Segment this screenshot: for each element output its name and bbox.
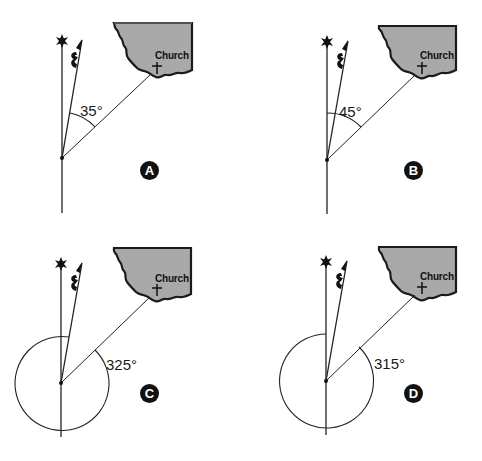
star-icon <box>321 35 333 49</box>
star-icon <box>55 257 67 271</box>
vertex-point <box>325 158 329 162</box>
panel-d-drawing <box>241 230 482 460</box>
bearing-diagram-figure: 35° Church A 4 <box>0 0 482 461</box>
panel-c-drawing <box>0 230 241 460</box>
panel-a: 35° Church A <box>0 0 241 230</box>
fleur-arrow-icon <box>71 262 82 291</box>
panel-d: 315° Church D <box>241 230 482 460</box>
fleur-arrow-icon <box>336 260 347 289</box>
church-bearing-line <box>62 75 150 158</box>
star-icon <box>56 34 68 48</box>
vertex-point <box>59 381 63 385</box>
panel-b: 45° Church B <box>241 0 482 230</box>
church-label: Church <box>420 51 454 61</box>
church-label: Church <box>420 272 454 282</box>
angle-label: 35° <box>80 103 103 118</box>
vertex-point <box>324 379 328 383</box>
star-icon <box>320 255 332 269</box>
church-label: Church <box>155 274 189 284</box>
panel-badge: C <box>140 384 159 403</box>
church-label: Church <box>155 51 189 61</box>
angle-label: 315° <box>374 356 405 371</box>
magnetic-north-line <box>326 261 347 381</box>
panel-badge: A <box>140 161 159 180</box>
magnetic-north-line <box>61 263 82 383</box>
angle-label: 325° <box>106 357 137 372</box>
panel-badge: B <box>404 161 423 180</box>
panel-c: 325° Church C <box>0 230 241 460</box>
panel-a-drawing <box>0 0 241 230</box>
fleur-arrow-icon <box>71 39 82 68</box>
panel-badge: D <box>404 384 423 403</box>
vertex-point <box>60 156 64 160</box>
angle-label: 45° <box>339 104 362 119</box>
fleur-arrow-icon <box>337 40 348 69</box>
